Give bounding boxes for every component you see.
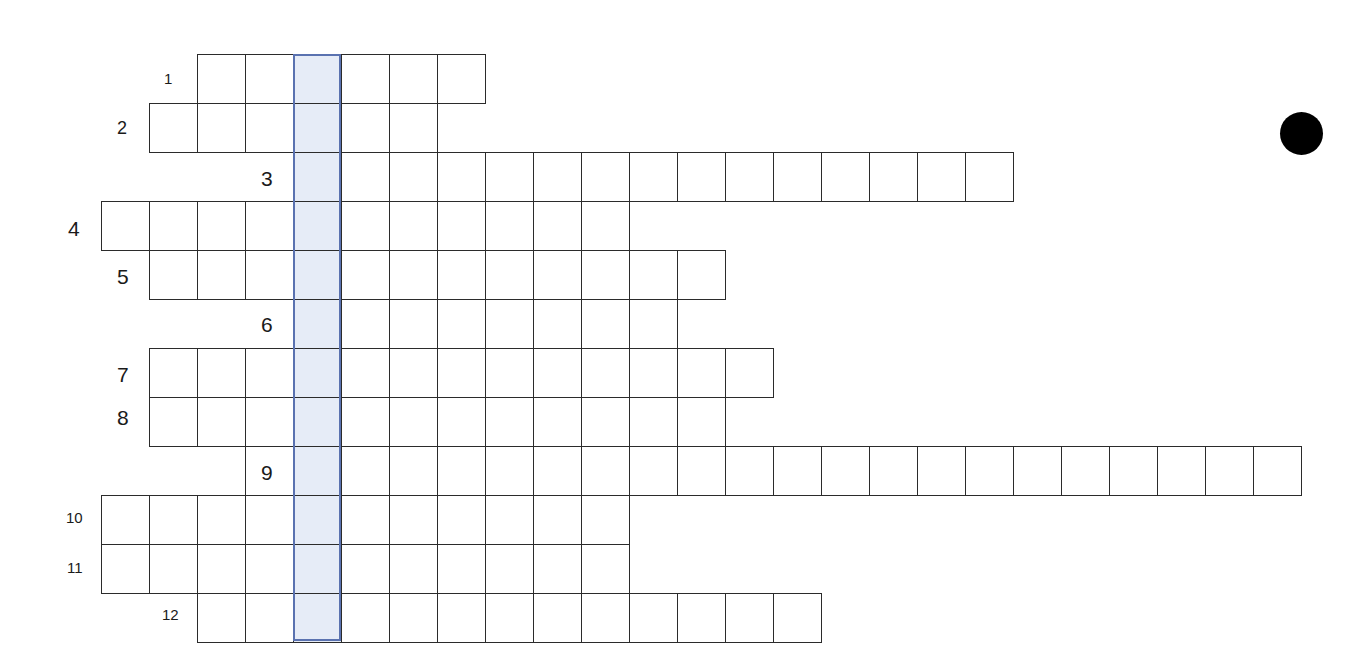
cell-row-10-col-2[interactable] (149, 495, 198, 545)
cell-row-6-col-2[interactable] (341, 299, 390, 349)
cell-row-12-col-7[interactable] (485, 593, 534, 643)
cell-row-12-col-2[interactable] (245, 593, 294, 643)
cell-row-8-col-5[interactable] (341, 397, 390, 447)
cell-row-3-col-4[interactable] (437, 152, 486, 202)
cell-row-9-col-16[interactable] (1013, 446, 1062, 496)
cell-row-5-col-10[interactable] (581, 250, 630, 300)
cell-row-9-col-20[interactable] (1205, 446, 1254, 496)
cell-row-9-col-1[interactable] (293, 446, 342, 496)
cell-row-8-col-9[interactable] (533, 397, 582, 447)
cell-row-1-col-5[interactable] (389, 54, 438, 104)
cell-row-5-col-11[interactable] (629, 250, 678, 300)
cell-row-2-col-4[interactable] (293, 103, 342, 153)
cell-row-9-col-8[interactable] (629, 446, 678, 496)
cell-row-9-col-10[interactable] (725, 446, 774, 496)
cell-row-7-col-11[interactable] (629, 348, 678, 398)
cell-row-3-col-3[interactable] (389, 152, 438, 202)
cell-row-1-col-3[interactable] (293, 54, 342, 104)
cell-row-12-col-10[interactable] (629, 593, 678, 643)
cell-row-10-col-3[interactable] (197, 495, 246, 545)
cell-row-1-col-1[interactable] (197, 54, 246, 104)
cell-row-8-col-2[interactable] (197, 397, 246, 447)
cell-row-2-col-5[interactable] (341, 103, 390, 153)
cell-row-8-col-12[interactable] (677, 397, 726, 447)
cell-row-9-col-19[interactable] (1157, 446, 1206, 496)
cell-row-2-col-2[interactable] (197, 103, 246, 153)
cell-row-12-col-13[interactable] (773, 593, 822, 643)
cell-row-9-col-13[interactable] (869, 446, 918, 496)
cell-row-11-col-11[interactable] (581, 544, 630, 594)
cell-row-12-col-11[interactable] (677, 593, 726, 643)
cell-row-4-col-7[interactable] (389, 201, 438, 251)
cell-row-5-col-8[interactable] (485, 250, 534, 300)
cell-row-10-col-1[interactable] (101, 495, 150, 545)
cell-row-11-col-6[interactable] (341, 544, 390, 594)
cell-row-9-col-15[interactable] (965, 446, 1014, 496)
cell-row-8-col-10[interactable] (581, 397, 630, 447)
cell-row-7-col-2[interactable] (197, 348, 246, 398)
cell-row-6-col-4[interactable] (437, 299, 486, 349)
cell-row-4-col-1[interactable] (101, 201, 150, 251)
cell-row-10-col-7[interactable] (389, 495, 438, 545)
cell-row-7-col-4[interactable] (293, 348, 342, 398)
cell-row-3-col-9[interactable] (677, 152, 726, 202)
cell-row-7-col-13[interactable] (725, 348, 774, 398)
cell-row-1-col-2[interactable] (245, 54, 294, 104)
cell-row-11-col-9[interactable] (485, 544, 534, 594)
cell-row-12-col-12[interactable] (725, 593, 774, 643)
cell-row-2-col-3[interactable] (245, 103, 294, 153)
cell-row-7-col-3[interactable] (245, 348, 294, 398)
cell-row-12-col-8[interactable] (533, 593, 582, 643)
cell-row-3-col-7[interactable] (581, 152, 630, 202)
cell-row-7-col-12[interactable] (677, 348, 726, 398)
cell-row-4-col-6[interactable] (341, 201, 390, 251)
cell-row-9-col-18[interactable] (1109, 446, 1158, 496)
cell-row-9-col-6[interactable] (533, 446, 582, 496)
cell-row-12-col-9[interactable] (581, 593, 630, 643)
cell-row-7-col-7[interactable] (437, 348, 486, 398)
cell-row-10-col-9[interactable] (485, 495, 534, 545)
cell-row-2-col-6[interactable] (389, 103, 438, 153)
cell-row-12-col-4[interactable] (341, 593, 390, 643)
cell-row-4-col-3[interactable] (197, 201, 246, 251)
cell-row-9-col-5[interactable] (485, 446, 534, 496)
cell-row-3-col-15[interactable] (965, 152, 1014, 202)
cell-row-10-col-10[interactable] (533, 495, 582, 545)
cell-row-6-col-5[interactable] (485, 299, 534, 349)
cell-row-3-col-13[interactable] (869, 152, 918, 202)
cell-row-9-col-9[interactable] (677, 446, 726, 496)
cell-row-10-col-6[interactable] (341, 495, 390, 545)
cell-row-5-col-4[interactable] (293, 250, 342, 300)
cell-row-9-col-11[interactable] (773, 446, 822, 496)
cell-row-12-col-3[interactable] (293, 593, 342, 643)
cell-row-11-col-2[interactable] (149, 544, 198, 594)
cell-row-9-col-2[interactable] (341, 446, 390, 496)
cell-row-5-col-1[interactable] (149, 250, 198, 300)
cell-row-3-col-8[interactable] (629, 152, 678, 202)
cell-row-3-col-14[interactable] (917, 152, 966, 202)
cell-row-9-col-21[interactable] (1253, 446, 1302, 496)
cell-row-4-col-8[interactable] (437, 201, 486, 251)
cell-row-6-col-8[interactable] (629, 299, 678, 349)
cell-row-5-col-3[interactable] (245, 250, 294, 300)
cell-row-10-col-8[interactable] (437, 495, 486, 545)
cell-row-7-col-5[interactable] (341, 348, 390, 398)
cell-row-9-col-17[interactable] (1061, 446, 1110, 496)
cell-row-5-col-7[interactable] (437, 250, 486, 300)
cell-row-5-col-12[interactable] (677, 250, 726, 300)
cell-row-5-col-9[interactable] (533, 250, 582, 300)
cell-row-4-col-4[interactable] (245, 201, 294, 251)
cell-row-4-col-11[interactable] (581, 201, 630, 251)
cell-row-8-col-4[interactable] (293, 397, 342, 447)
cell-row-12-col-1[interactable] (197, 593, 246, 643)
cell-row-4-col-5[interactable] (293, 201, 342, 251)
cell-row-7-col-1[interactable] (149, 348, 198, 398)
cell-row-7-col-9[interactable] (533, 348, 582, 398)
cell-row-5-col-6[interactable] (389, 250, 438, 300)
cell-row-11-col-10[interactable] (533, 544, 582, 594)
cell-row-6-col-3[interactable] (389, 299, 438, 349)
cell-row-11-col-7[interactable] (389, 544, 438, 594)
cell-row-8-col-6[interactable] (389, 397, 438, 447)
cell-row-3-col-5[interactable] (485, 152, 534, 202)
cell-row-11-col-4[interactable] (245, 544, 294, 594)
